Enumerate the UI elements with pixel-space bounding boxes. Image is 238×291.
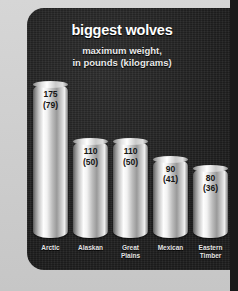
bar-cap [193,165,228,172]
bar-cylinder: 110 (50) [73,141,108,238]
bar-value-kilograms: (41) [153,174,188,185]
bar-value-kilograms: (50) [113,157,148,168]
bar-value-label: 175 (79) [33,89,68,110]
category-label-line1: Alaskan [78,244,103,251]
chart-subtitle: maximum weight, in pounds (kilograms) [27,45,217,69]
bar-value-pounds: 175 [43,89,57,99]
bar-value-pounds: 90 [166,164,175,174]
bar-value-pounds: 80 [206,173,215,183]
bar-value-kilograms: (79) [33,100,68,111]
bar-slot: 110 (50) [113,84,148,238]
category-label: Arctic [33,244,68,260]
bar-value-kilograms: (36) [193,183,228,194]
bar-value-pounds: 110 [84,146,98,156]
bar-cylinder: 110 (50) [113,141,148,238]
bar-value-label: 90 (41) [153,164,188,185]
chart-screenshot: biggest wolves maximum weight, in pounds… [0,0,238,291]
chart-subtitle-line1: maximum weight, [82,45,162,56]
bar-value-pounds: 110 [124,146,138,156]
category-label-line2: Timber [200,252,222,259]
bar-cap [153,156,188,163]
category-label: Great Plains [113,244,148,260]
bar-cap [73,138,108,145]
bar-value-label: 110 (50) [113,146,148,167]
bar-plot-area: 175 (79) 110 (50) 11 [33,84,232,238]
bar-slot: 110 (50) [73,84,108,238]
title-block: biggest wolves maximum weight, in pounds… [27,22,217,69]
category-label: Mexican [153,244,188,260]
right-edge-strip [230,0,238,291]
chart-panel: biggest wolves maximum weight, in pounds… [27,8,238,270]
bar-cylinder: 80 (36) [193,168,228,238]
bar-cap [113,138,148,145]
bar-slot: 175 (79) [33,84,68,238]
category-label-line1: Arctic [41,244,59,251]
bar-slot: 90 (41) [153,84,188,238]
chart-subtitle-line2: in pounds (kilograms) [72,57,171,68]
bar-slot: 80 (36) [193,84,228,238]
bar-cap [33,81,68,88]
category-label-line2: Plains [121,252,140,259]
page-title: biggest wolves [27,22,217,38]
category-label: Eastern Timber [193,244,228,260]
category-label: Alaskan [73,244,108,260]
bar-cylinder: 90 (41) [153,159,188,238]
bar-value-kilograms: (50) [73,157,108,168]
category-label-line1: Great [122,244,139,251]
category-axis: Arctic Alaskan Great Plains Mexican East… [33,244,232,260]
bar-cylinder: 175 (79) [33,84,68,238]
bar-value-label: 110 (50) [73,146,108,167]
category-label-line1: Mexican [158,244,184,251]
bar-value-label: 80 (36) [193,173,228,194]
category-label-line1: Eastern [199,244,223,251]
